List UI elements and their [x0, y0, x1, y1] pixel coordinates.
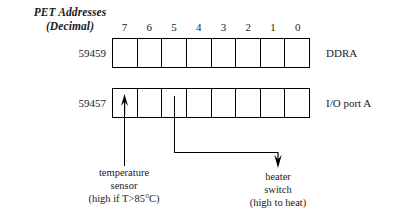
ddra-bit-5[interactable]	[162, 39, 187, 67]
figure-heading-line-2: (Decimal)	[18, 20, 122, 34]
heater-switch-annotation: heater switch (high to heat)	[213, 170, 343, 209]
ddra-bit-4[interactable]	[187, 39, 212, 67]
bit-number-6: 6	[137, 20, 162, 35]
heater-switch-line-1: heater	[213, 170, 343, 183]
bit-number-2: 2	[236, 20, 261, 35]
ddra-bit-2[interactable]	[236, 39, 261, 67]
temperature-sensor-line-2: sensor	[56, 179, 192, 192]
heater-switch-leader-horizontal	[174, 152, 278, 153]
bit-number-ruler: 7 6 5 4 3 2 1 0	[112, 20, 310, 35]
register-byte-io-port-a	[112, 88, 310, 118]
temperature-sensor-line-1: temperature	[56, 166, 192, 179]
heater-switch-line-3: (high to heat)	[213, 196, 343, 209]
temperature-sensor-annotation: temperature sensor (high if T>85°C)	[56, 166, 192, 205]
figure-canvas: PET Addresses (Decimal) 7 6 5 4 3 2 1 0 …	[0, 0, 397, 216]
bit-number-3: 3	[211, 20, 236, 35]
ddra-bit-0[interactable]	[285, 39, 309, 67]
io-port-a-bit-3[interactable]	[212, 89, 237, 117]
bit-number-7: 7	[112, 20, 137, 35]
figure-heading-line-1: PET Addresses	[18, 6, 122, 20]
ddra-bit-1[interactable]	[261, 39, 286, 67]
bit-number-1: 1	[261, 20, 286, 35]
heater-switch-line-2: switch	[213, 183, 343, 196]
register-name-io-port-a: I/O port A	[326, 96, 371, 110]
ddra-bit-3[interactable]	[212, 39, 237, 67]
bit-number-0: 0	[285, 20, 310, 35]
io-port-a-bit-6[interactable]	[138, 89, 163, 117]
bit-number-4: 4	[186, 20, 211, 35]
heater-switch-arrowhead-icon	[273, 152, 284, 169]
io-port-a-bit-4[interactable]	[187, 89, 212, 117]
bit-number-5: 5	[162, 20, 187, 35]
io-port-a-bit-0[interactable]	[285, 89, 309, 117]
ddra-bit-6[interactable]	[138, 39, 163, 67]
temperature-sensor-leader-line	[124, 104, 125, 166]
register-address-io-port-a: 59457	[38, 96, 106, 110]
io-port-a-bit-7[interactable]	[113, 89, 138, 117]
temperature-sensor-line-3: (high if T>85°C)	[56, 192, 192, 205]
register-byte-ddra	[112, 38, 310, 68]
io-port-a-bit-1[interactable]	[261, 89, 286, 117]
register-name-ddra: DDRA	[326, 46, 357, 60]
ddra-bit-7[interactable]	[113, 39, 138, 67]
figure-heading: PET Addresses (Decimal)	[18, 6, 122, 33]
heater-switch-leader-vertical	[174, 96, 175, 153]
io-port-a-bit-2[interactable]	[236, 89, 261, 117]
register-address-ddra: 59459	[38, 46, 106, 60]
